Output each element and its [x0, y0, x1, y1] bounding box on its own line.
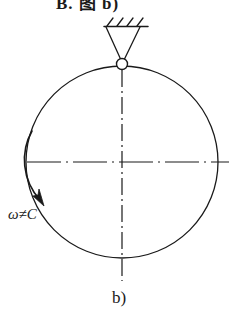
angular-velocity-label: ω≠C	[8, 206, 37, 223]
rotation-arc	[24, 131, 40, 200]
support-triangle-icon	[106, 27, 140, 60]
mechanics-diagram	[0, 0, 236, 320]
figure-caption: b)	[112, 288, 126, 308]
rotation-arrowhead-icon	[33, 189, 44, 206]
pin-joint-icon	[117, 59, 128, 70]
figure-page: B. 图 b) ω≠C b)	[0, 0, 236, 320]
ground-hatch-icon	[107, 18, 143, 26]
